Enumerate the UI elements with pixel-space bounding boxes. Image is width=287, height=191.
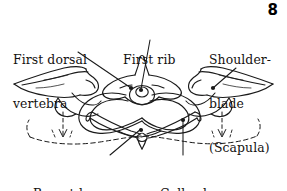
- label-first-dorsal-vertebra: First dorsal vertebra: [13, 24, 87, 141]
- label-line: Collar-bone: [160, 187, 234, 191]
- label-line: Shoulder-: [209, 53, 271, 68]
- label-line: First rib: [123, 53, 175, 68]
- label-line: First dorsal: [13, 53, 87, 68]
- label-line: blade: [209, 97, 271, 112]
- label-line: Breast-bone: [33, 187, 110, 191]
- anatomical-figure: 8 First dorsal vertebra First rib Should…: [0, 0, 287, 191]
- label-collar-bone: Collar-bone (Clavicle): [160, 158, 234, 191]
- label-line: (Scapula): [209, 141, 271, 156]
- label-first-rib: First rib: [123, 24, 175, 97]
- figure-number: 8: [268, 1, 278, 19]
- leader-breast-bone: [110, 129, 141, 155]
- label-breast-bone: Breast-bone (Sternum): [33, 158, 110, 191]
- label-line: vertebra: [13, 97, 87, 112]
